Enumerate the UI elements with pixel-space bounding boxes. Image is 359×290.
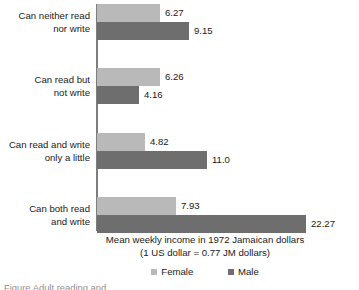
category-label: Can read and write only a little [0, 139, 90, 164]
bar-group: Can neither read nor write 6.27 9.15 [0, 4, 359, 60]
category-label: Can read but not write [0, 74, 90, 99]
bar-male[interactable] [97, 22, 189, 40]
bar-value-male: 11.0 [207, 151, 230, 169]
bar-chart: Can neither read nor write 6.27 9.15 Can… [0, 0, 359, 290]
bar-male[interactable] [97, 151, 207, 169]
legend-swatch-icon [151, 269, 157, 275]
bar-female[interactable] [97, 68, 160, 86]
bar-row-female: 6.26 [97, 68, 184, 86]
legend-label: Male [238, 266, 259, 278]
bar-row-male: 11.0 [97, 151, 230, 169]
bar-value-female: 4.82 [145, 133, 169, 151]
figure-caption: Figure Adult reading and . . . [4, 283, 356, 290]
category-label: Can both read and write [0, 203, 90, 228]
axis-caption-line1: Mean weekly income in 1972 Jamaican doll… [60, 234, 350, 247]
legend-item-female[interactable]: Female [151, 266, 193, 278]
category-label: Can neither read nor write [0, 10, 90, 35]
bar-male[interactable] [97, 215, 306, 233]
bar-female[interactable] [97, 4, 160, 22]
bar-value-male: 22.27 [306, 215, 335, 233]
legend-item-male[interactable]: Male [228, 266, 259, 278]
bar-group: Can read but not write 6.26 4.16 [0, 68, 359, 124]
bar-group: Can read and write only a little 4.82 11… [0, 133, 359, 189]
bar-value-male: 4.16 [139, 86, 163, 104]
bar-value-female: 6.27 [160, 4, 184, 22]
bar-female[interactable] [97, 197, 176, 215]
legend-label: Female [161, 266, 193, 278]
bar-row-female: 4.82 [97, 133, 169, 151]
axis-caption-line2: (1 US dollar = 0.77 JM dollars) [60, 247, 350, 260]
legend: Female Male [60, 266, 350, 278]
bar-male[interactable] [97, 86, 139, 104]
bar-value-male: 9.15 [189, 22, 213, 40]
plot-area: Can neither read nor write 6.27 9.15 Can… [0, 0, 359, 232]
bar-row-male: 9.15 [97, 22, 213, 40]
bar-row-female: 7.93 [97, 197, 200, 215]
bar-value-female: 6.26 [160, 68, 184, 86]
bar-value-female: 7.93 [176, 197, 200, 215]
legend-swatch-icon [228, 269, 234, 275]
axis-caption: Mean weekly income in 1972 Jamaican doll… [60, 234, 350, 259]
bar-row-female: 6.27 [97, 4, 184, 22]
bar-row-male: 22.27 [97, 215, 335, 233]
bar-female[interactable] [97, 133, 145, 151]
bar-row-male: 4.16 [97, 86, 163, 104]
